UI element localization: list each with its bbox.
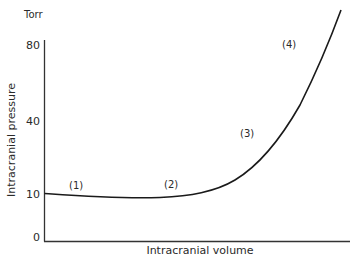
pressure-volume-curve bbox=[45, 10, 342, 198]
annotation-3: (3) bbox=[240, 128, 254, 139]
y-tick-40: 40 bbox=[26, 115, 40, 128]
y-tick-0: 0 bbox=[33, 231, 40, 244]
annotation-4: (4) bbox=[282, 39, 296, 50]
y-unit-label: Torr bbox=[23, 9, 43, 20]
annotation-2: (2) bbox=[164, 179, 178, 190]
y-tick-80: 80 bbox=[26, 39, 40, 52]
x-axis-label: Intracranial volume bbox=[146, 244, 253, 257]
chart: Torr 80 40 10 0 Intracranial pressure In… bbox=[0, 0, 360, 261]
y-axis-label: Intracranial pressure bbox=[5, 83, 18, 197]
y-tick-10: 10 bbox=[26, 188, 40, 201]
annotation-1: (1) bbox=[69, 180, 83, 191]
